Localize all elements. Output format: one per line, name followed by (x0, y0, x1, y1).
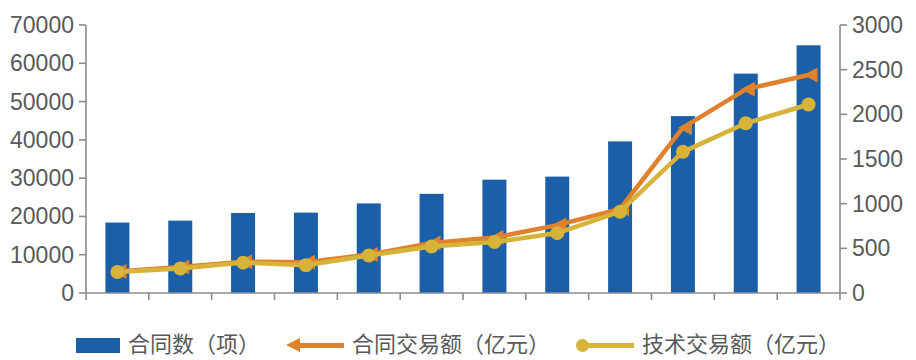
left-axis-tick-label: 10000 (10, 242, 74, 268)
left-axis-tick-label: 50000 (10, 89, 74, 115)
right-axis: 050010001500200025003000 (840, 12, 903, 305)
bar-2021 (734, 74, 758, 293)
legend-arrow-line-icon (286, 338, 344, 352)
legend-item-contract-value: 合同交易额（亿元） (286, 334, 550, 356)
right-axis-tick-label: 1000 (852, 191, 903, 217)
category-axis-labels: 2011201220132014201520162017201820192020… (86, 293, 840, 305)
category-label: 2012 (155, 302, 206, 305)
legend-dot-line-icon (576, 338, 634, 352)
line-series-group (110, 68, 817, 280)
chart-container: 010000200003000040000500006000070000 050… (0, 0, 916, 360)
left-axis-tick-label: 70000 (10, 12, 74, 38)
left-axis-tick-label: 30000 (10, 165, 74, 191)
category-label: 2011 (93, 302, 142, 305)
marker-dot-2014 (299, 258, 313, 272)
chart-legend: 合同数（项） 合同交易额（亿元） 技术交易额（亿元） (0, 330, 916, 360)
bar-2011 (105, 223, 129, 293)
marker-dot-2017 (487, 235, 501, 249)
category-label: 2016 (406, 302, 457, 305)
left-axis-tick-label: 20000 (10, 203, 74, 229)
category-label: 2017 (469, 302, 520, 305)
chart-svg: 010000200003000040000500006000070000 050… (0, 0, 916, 305)
bar-2013 (231, 213, 255, 293)
marker-dot-2015 (362, 248, 376, 262)
right-axis-tick-label: 500 (852, 235, 890, 261)
category-label: 2022 (783, 302, 834, 305)
legend-label-tech-value: 技术交易额（亿元） (642, 334, 840, 356)
bar-series-group (105, 45, 820, 293)
right-axis-tick-label: 3000 (852, 12, 903, 38)
right-axis-tick-label: 0 (852, 280, 865, 305)
category-label: 2018 (532, 302, 583, 305)
bar-2020 (671, 116, 695, 293)
right-axis-tick-label: 2500 (852, 57, 903, 83)
right-axis-tick-label: 2000 (852, 101, 903, 127)
category-label: 2014 (280, 302, 331, 305)
bar-2012 (168, 221, 192, 293)
marker-dot-2011 (110, 265, 124, 279)
legend-bar-swatch-icon (76, 338, 120, 353)
marker-dot-2019 (613, 205, 627, 219)
marker-dot-2012 (173, 261, 187, 275)
left-axis: 010000200003000040000500006000070000 (10, 12, 86, 305)
category-label: 2015 (343, 302, 394, 305)
category-label: 2021 (720, 302, 771, 305)
legend-label-contract-count: 合同数（项） (128, 334, 260, 356)
right-axis-tick-label: 1500 (852, 146, 903, 172)
bar-2014 (294, 213, 318, 293)
category-label: 2019 (594, 302, 645, 305)
legend-label-contract-value: 合同交易额（亿元） (352, 334, 550, 356)
left-axis-tick-label: 60000 (10, 50, 74, 76)
marker-dot-2016 (425, 240, 439, 254)
left-axis-tick-label: 0 (61, 280, 74, 305)
line-series-tech-value (117, 105, 808, 273)
left-axis-tick-label: 40000 (10, 127, 74, 153)
legend-item-contract-count: 合同数（项） (76, 334, 260, 356)
marker-dot-2020 (676, 145, 690, 159)
category-label: 2013 (217, 302, 268, 305)
legend-item-tech-value: 技术交易额（亿元） (576, 334, 840, 356)
plot-area: 010000200003000040000500006000070000 050… (0, 0, 916, 305)
marker-dot-2018 (550, 226, 564, 240)
marker-dot-2021 (739, 116, 753, 130)
marker-dot-2022 (802, 98, 816, 112)
marker-dot-2013 (236, 256, 250, 270)
category-label: 2020 (657, 302, 708, 305)
bar-2022 (797, 45, 821, 293)
